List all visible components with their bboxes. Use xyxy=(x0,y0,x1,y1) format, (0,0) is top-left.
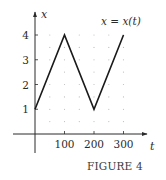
grid-dot xyxy=(93,72,94,73)
grid-dot xyxy=(64,121,65,122)
grid-dot xyxy=(79,59,80,60)
grid-dot xyxy=(49,121,50,122)
grid-dot xyxy=(49,47,50,48)
grid-dot xyxy=(108,84,109,85)
grid-dot xyxy=(79,84,80,85)
grid-dot xyxy=(108,59,109,60)
grid-dot xyxy=(123,109,124,110)
function-annotation: x = x(t) xyxy=(101,15,141,27)
grid-dot xyxy=(123,59,124,60)
grid-dot xyxy=(64,109,65,110)
y-tick-label: 2 xyxy=(22,79,29,91)
y-tick-label: 3 xyxy=(22,54,29,66)
grid-dot xyxy=(123,84,124,85)
y-axis-ticks: 1234 xyxy=(22,29,38,115)
y-tick-label: 4 xyxy=(22,29,29,41)
grid-dot xyxy=(64,96,65,97)
grid-dot xyxy=(49,96,50,97)
grid-dot xyxy=(108,34,109,35)
grid-dot xyxy=(123,121,124,122)
grid-dot xyxy=(93,47,94,48)
dotted-grid xyxy=(49,34,124,122)
x-tick-label: 100 xyxy=(54,138,74,150)
grid-dot xyxy=(79,121,80,122)
figure-caption: FIGURE 4 xyxy=(87,160,143,172)
grid-dot xyxy=(64,72,65,73)
grid-dot xyxy=(49,84,50,85)
y-tick-label: 1 xyxy=(22,103,29,115)
grid-dot xyxy=(93,34,94,35)
grid-dot xyxy=(49,109,50,110)
grid-dot xyxy=(93,96,94,97)
grid-dot xyxy=(64,47,65,48)
chart-figure: 100200300 1234 x t x = x(t) FIGURE 4 xyxy=(0,0,166,180)
grid-dot xyxy=(108,47,109,48)
grid-dot xyxy=(79,109,80,110)
grid-dot xyxy=(64,59,65,60)
y-axis-label: x xyxy=(41,8,48,21)
grid-dot xyxy=(123,72,124,73)
grid-dot xyxy=(49,34,50,35)
grid-dot xyxy=(79,34,80,35)
data-line-x-of-t xyxy=(35,35,124,109)
grid-dot xyxy=(93,84,94,85)
x-tick-label: 300 xyxy=(113,138,133,150)
x-tick-label: 200 xyxy=(84,138,104,150)
grid-dot xyxy=(79,47,80,48)
grid-dot xyxy=(108,96,109,97)
grid-dot xyxy=(49,59,50,60)
grid-dot xyxy=(93,59,94,60)
x-axis-label: t xyxy=(150,140,155,153)
grid-dot xyxy=(108,109,109,110)
grid-dot xyxy=(79,96,80,97)
grid-dot xyxy=(123,96,124,97)
grid-dot xyxy=(64,84,65,85)
grid-dot xyxy=(93,121,94,122)
grid-dot xyxy=(123,47,124,48)
grid-dot xyxy=(108,121,109,122)
